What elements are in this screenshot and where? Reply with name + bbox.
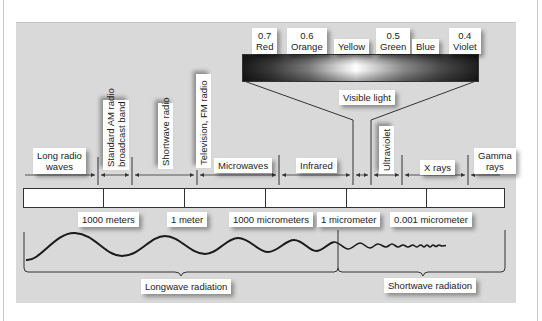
band-label-gamma-rays: Gamma rays — [474, 148, 516, 174]
color-label-blue: Blue — [412, 39, 439, 54]
color-label-green: 0.5 Green — [376, 28, 410, 54]
band-separators — [98, 155, 468, 185]
scale-divider — [346, 189, 347, 207]
color-label-violet: 0.4 Violet — [449, 28, 481, 54]
scale-divider — [184, 189, 185, 207]
scale-divider — [103, 189, 104, 207]
scale-label-1000-micrometers: 1000 micrometers — [229, 212, 313, 227]
color-name: Red — [256, 41, 273, 52]
longwave-radiation-label: Longwave radiation — [141, 279, 231, 294]
color-name: Orange — [291, 41, 323, 52]
scale-divider — [426, 189, 427, 207]
color-name: Yellow — [338, 41, 365, 52]
band-label-microwaves: Microwaves — [214, 158, 272, 173]
band-label-long-radio: Long radio waves — [33, 148, 86, 174]
band-label-shortwave-radio: Shortwave radio — [158, 103, 173, 169]
band-label-line: Ultraviolet — [381, 129, 392, 171]
color-label-orange: 0.6 Orange — [287, 28, 327, 54]
band-label-line: Long radio — [37, 150, 82, 161]
color-name: Green — [380, 41, 406, 52]
wavelength-value: 0.6 — [291, 30, 323, 41]
brace-longwave — [24, 230, 338, 276]
wavelength-scale-bar — [23, 188, 505, 208]
color-label-yellow: Yellow — [334, 39, 369, 54]
scale-divider — [265, 189, 266, 207]
band-label-x-rays: X rays — [420, 160, 455, 175]
shortwave-radiation-label: Shortwave radiation — [384, 278, 476, 293]
color-name: Blue — [416, 41, 435, 52]
scale-label-1-meter: 1 meter — [167, 212, 207, 227]
wave-shortwave — [334, 242, 446, 249]
band-label-line: Shortwave radio — [160, 97, 171, 166]
band-label-line: Television, FM radio — [198, 81, 209, 165]
scale-label-1000-meters: 1000 meters — [78, 212, 139, 227]
band-label-line: broadcast band — [116, 102, 127, 168]
wavelength-value: 0.7 — [256, 30, 273, 41]
scale-label-0001-micrometer: 0.001 micrometer — [390, 212, 472, 227]
wave-longwave — [26, 233, 334, 260]
wavelength-value: 0.5 — [380, 30, 406, 41]
band-label-line: waves — [37, 161, 82, 172]
band-label-line: rays — [478, 161, 512, 172]
band-label-television-fm: Television, FM radio — [196, 74, 211, 168]
band-label-am-radio: Standard AM radio broadcast band — [103, 100, 129, 170]
visible-light-label: Visible light — [339, 90, 395, 105]
scale-label-1-micrometer: 1 micrometer — [317, 212, 380, 227]
color-label-red: 0.7 Red — [252, 28, 277, 54]
band-label-line: Standard AM radio — [105, 88, 116, 167]
color-name: Violet — [453, 41, 477, 52]
wavelength-value: 0.4 — [453, 30, 477, 41]
band-label-ultraviolet: Ultraviolet — [379, 126, 394, 174]
band-label-line: Gamma — [478, 150, 512, 161]
band-label-infrared: Infrared — [296, 158, 337, 173]
brace-shortwave — [338, 230, 505, 276]
